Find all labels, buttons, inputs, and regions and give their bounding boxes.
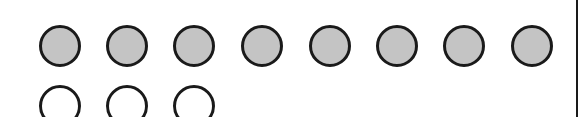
- filled-circle-icon: [175, 27, 214, 66]
- filled-circle-icon: [41, 27, 80, 66]
- filled-circle-icon: [311, 27, 350, 66]
- filled-circle-icon: [445, 27, 484, 66]
- right-border-line: [576, 0, 578, 117]
- empty-circle-icon: [175, 87, 214, 118]
- filled-circle-icon: [108, 27, 147, 66]
- empty-circle-icon: [108, 87, 147, 118]
- filled-circle-icon: [513, 27, 552, 66]
- filled-circle-icon: [378, 27, 417, 66]
- filled-circle-icon: [243, 27, 282, 66]
- circles-svg: [0, 0, 580, 117]
- empty-circle-icon: [41, 87, 80, 118]
- circle-diagram: [0, 0, 580, 117]
